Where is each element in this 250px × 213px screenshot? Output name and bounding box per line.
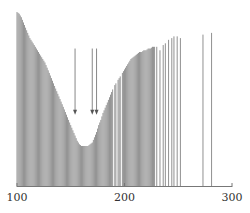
histogram-bar <box>58 96 59 186</box>
histogram-bar <box>96 132 97 186</box>
histogram-bar <box>119 78 120 186</box>
histogram-bar <box>154 47 155 186</box>
histogram-bar <box>99 122 100 186</box>
histogram-bar <box>67 117 68 186</box>
histogram-bar <box>48 70 49 186</box>
histogram-bar <box>93 140 94 186</box>
histogram-bar <box>41 57 42 186</box>
histogram-bar <box>153 47 154 186</box>
histogram-bar <box>49 73 50 186</box>
arrow-annotations <box>73 49 99 115</box>
histogram-bar <box>135 56 136 187</box>
histogram-bar <box>148 49 149 186</box>
histogram-bar <box>35 47 36 186</box>
histogram-bar <box>81 146 82 186</box>
histogram-bar <box>56 91 57 186</box>
histogram-bar <box>21 17 22 186</box>
down-arrow-icon <box>73 110 77 115</box>
histogram-bar <box>104 110 105 186</box>
histogram-bar <box>38 52 39 186</box>
histogram-bar <box>66 115 67 186</box>
histogram-bar <box>71 128 72 186</box>
histogram-bar <box>70 125 71 186</box>
histogram-bar <box>18 13 19 186</box>
histogram-bar <box>39 54 40 186</box>
histogram-bar <box>98 125 99 186</box>
histogram-bar <box>101 116 102 186</box>
histogram-bar <box>29 38 30 186</box>
down-arrow-icon <box>95 110 99 115</box>
histogram-bar <box>45 62 46 186</box>
histogram-bar <box>46 65 47 186</box>
histogram-bar <box>24 25 25 186</box>
histogram-bar <box>136 55 137 186</box>
x-tick-label: 200 <box>114 191 135 204</box>
histogram-bar <box>127 64 128 186</box>
histogram-bar <box>78 143 79 187</box>
histogram-bar <box>143 50 144 186</box>
histogram-bar <box>88 146 89 186</box>
histogram-bar <box>132 58 133 186</box>
histogram-bar <box>32 42 33 186</box>
histogram-bar <box>55 89 56 186</box>
histogram-bars <box>17 12 212 186</box>
histogram-bar <box>126 66 127 186</box>
histogram-bar <box>142 51 143 186</box>
histogram-bar <box>107 102 108 186</box>
histogram-bar <box>64 109 65 186</box>
histogram-bar <box>25 28 26 186</box>
histogram-bar <box>43 61 44 186</box>
histogram-bar <box>20 15 21 186</box>
histogram-bar <box>128 62 129 186</box>
histogram-bar <box>57 94 58 186</box>
histogram-bar <box>147 49 148 186</box>
histogram-bar <box>118 80 119 186</box>
histogram-bar <box>85 146 86 186</box>
histogram-bar <box>76 138 77 186</box>
histogram-bar <box>27 33 28 186</box>
histogram-bar <box>72 130 73 186</box>
histogram-bar <box>110 95 111 186</box>
x-tick-label: 300 <box>222 191 243 204</box>
histogram-bar <box>65 112 66 186</box>
histogram-bar <box>111 92 112 186</box>
histogram-bar <box>90 144 91 186</box>
histogram-bar <box>63 107 64 186</box>
histogram-bar <box>140 52 141 186</box>
down-arrow-icon <box>90 110 94 115</box>
histogram-bar <box>54 86 55 186</box>
histogram-bar <box>123 71 124 186</box>
histogram-bar <box>141 52 142 186</box>
histogram-bar <box>103 113 104 186</box>
histogram-bar <box>151 48 152 186</box>
histogram-bar <box>91 143 92 186</box>
histogram-bar <box>36 49 37 186</box>
histogram-bar <box>95 135 96 186</box>
histogram-bar <box>89 145 90 186</box>
histogram-bar <box>84 146 85 186</box>
histogram-bar <box>28 35 29 186</box>
histogram-bar <box>124 69 125 186</box>
histogram-bar <box>149 49 150 186</box>
histogram-bar <box>152 47 153 186</box>
histogram-bar <box>79 144 80 186</box>
histogram-bar <box>144 50 145 186</box>
histogram-bar <box>86 146 87 186</box>
histogram-bar <box>125 68 126 186</box>
histogram-bar <box>23 22 24 186</box>
histogram-bar <box>108 100 109 186</box>
histogram-bar <box>109 97 110 186</box>
histogram-bar <box>68 120 69 186</box>
histogram-bar <box>69 122 70 186</box>
histogram-bar <box>19 14 20 186</box>
histogram-bar <box>137 54 138 186</box>
histogram-bar <box>75 136 76 186</box>
x-tick-label: 100 <box>7 191 28 204</box>
histogram-bar <box>34 45 35 186</box>
histogram-bar <box>61 102 62 186</box>
histogram-bar <box>112 89 113 186</box>
histogram-bar <box>133 57 134 186</box>
histogram-bar <box>120 76 121 186</box>
histogram-bar <box>51 78 52 186</box>
histogram-bar <box>33 43 34 186</box>
